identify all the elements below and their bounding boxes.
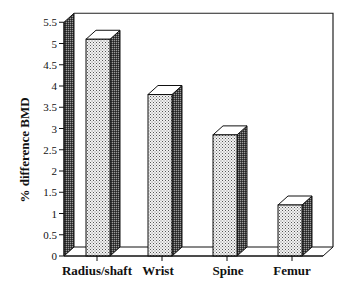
x-axis: Radius/shaftWristSpineFemur xyxy=(62,256,323,278)
y-tick-label: 1 xyxy=(52,208,58,220)
y-axis: 00.511.522.533.544.555.5 xyxy=(43,16,64,262)
y-tick-label: 1.5 xyxy=(43,186,57,198)
bar-chart: 00.511.522.533.544.555.5 Radius/shaftWri… xyxy=(0,0,349,292)
bar-spine xyxy=(213,126,247,256)
bar-femur xyxy=(278,196,312,256)
bar-radius-shaft xyxy=(86,30,120,256)
y-tick-label: 2 xyxy=(52,165,58,177)
left-wall xyxy=(64,13,74,256)
y-tick-label: 3.5 xyxy=(43,101,57,113)
y-tick-label: 4.5 xyxy=(43,59,57,71)
y-tick-label: 0.5 xyxy=(43,229,57,241)
bar-wrist xyxy=(148,86,182,257)
y-tick-label: 0 xyxy=(52,250,58,262)
x-tick-label: Wrist xyxy=(142,263,174,278)
bars xyxy=(86,30,312,256)
y-tick-label: 5.5 xyxy=(43,16,57,28)
y-tick-label: 4 xyxy=(52,80,58,92)
x-tick-label: Spine xyxy=(212,263,243,278)
x-tick-label: Radius/shaft xyxy=(62,263,133,278)
y-tick-label: 3 xyxy=(52,123,58,135)
x-tick-label: Femur xyxy=(273,263,311,278)
y-tick-label: 2.5 xyxy=(43,144,57,156)
y-tick-label: 5 xyxy=(52,38,58,50)
